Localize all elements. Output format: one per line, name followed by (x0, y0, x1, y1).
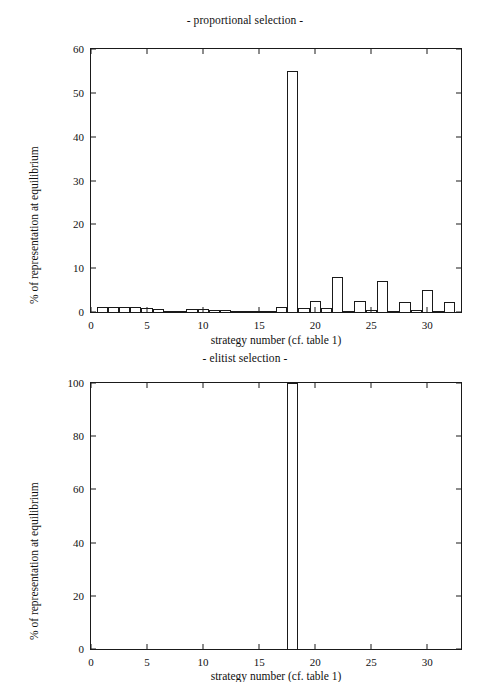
x-axis-tick-label: 30 (422, 649, 433, 668)
y-axis-tick-label: 80 (73, 430, 91, 442)
x-axis-tick-mark (91, 49, 92, 54)
x-axis-tick-mark (147, 644, 148, 649)
x-axis-tick-mark (147, 49, 148, 54)
y-axis-tick-mark (91, 92, 96, 93)
y-axis-tick-mark (91, 224, 96, 225)
y-axis-tick-label: 40 (73, 537, 91, 549)
bar (377, 281, 388, 312)
bar (276, 307, 287, 312)
x-axis-tick-label: 20 (310, 649, 321, 668)
x-axis-tick-mark (315, 383, 316, 388)
y-axis-tick-mark (456, 649, 461, 650)
bar (231, 311, 242, 312)
bar (399, 302, 410, 312)
bar (388, 311, 399, 312)
x-axis-tick-mark (427, 307, 428, 312)
y-axis-tick-mark (91, 268, 96, 269)
x-axis-tick-mark (371, 307, 372, 312)
y-axis-tick-label: 10 (73, 262, 91, 274)
y-axis-label-top: % of representation at equilibrium (28, 146, 40, 304)
y-axis-tick-mark (91, 489, 96, 490)
y-axis-tick-mark (456, 542, 461, 543)
y-axis-tick-mark (456, 224, 461, 225)
y-axis-tick-mark (456, 180, 461, 181)
y-axis-tick-label: 60 (73, 43, 91, 55)
bar (209, 310, 220, 312)
y-axis-tick-mark (456, 49, 461, 50)
x-axis-tick-mark (147, 383, 148, 388)
y-axis-tick-label: 20 (73, 218, 91, 230)
bar (164, 311, 175, 312)
y-axis-tick-mark (91, 49, 96, 50)
bar (343, 311, 354, 312)
bar (298, 308, 309, 312)
y-axis-tick-mark (91, 595, 96, 596)
x-axis-tick-mark (259, 383, 260, 388)
x-axis-tick-mark (203, 644, 204, 649)
bar (130, 307, 141, 312)
chart-proportional-selection: - proportional selection - 0102030405060… (0, 14, 490, 344)
x-axis-tick-mark (259, 49, 260, 54)
x-axis-tick-label: 0 (88, 649, 94, 668)
bar (119, 307, 130, 312)
bar (287, 383, 298, 649)
bar (186, 309, 197, 312)
y-axis-tick-mark (456, 92, 461, 93)
x-axis-tick-label: 5 (144, 312, 150, 331)
x-axis-tick-mark (427, 49, 428, 54)
x-axis-tick-mark (371, 644, 372, 649)
x-axis-tick-mark (259, 307, 260, 312)
bar (411, 310, 422, 312)
x-axis-tick-mark (203, 49, 204, 54)
plot-area-bottom: 020406080100 051015202530 (90, 382, 462, 650)
bar (444, 302, 455, 312)
y-axis-tick-mark (456, 383, 461, 384)
x-axis-tick-mark (91, 383, 92, 388)
y-axis-tick-mark (456, 595, 461, 596)
bar (220, 310, 231, 312)
x-axis-tick-mark (371, 49, 372, 54)
x-axis-tick-label: 25 (366, 649, 377, 668)
bar (433, 311, 444, 312)
y-axis-tick-mark (91, 180, 96, 181)
x-axis-label-bottom: strategy number (cf. table 1) (90, 670, 462, 682)
x-axis-tick-label: 5 (144, 649, 150, 668)
x-axis-tick-label: 25 (366, 312, 377, 331)
x-axis-tick-mark (91, 644, 92, 649)
y-axis-tick-mark (91, 136, 96, 137)
y-axis-tick-mark (456, 436, 461, 437)
y-axis-tick-label: 50 (73, 87, 91, 99)
x-axis-tick-mark (315, 49, 316, 54)
figure-page: - proportional selection - 0102030405060… (0, 0, 490, 682)
x-axis-tick-mark (203, 307, 204, 312)
chart-title-top: - proportional selection - (0, 14, 490, 26)
y-axis-tick-mark (91, 383, 96, 384)
plot-area-top: 0102030405060 051015202530 (90, 48, 462, 313)
y-axis-tick-label: 100 (68, 377, 92, 389)
y-axis-tick-mark (456, 136, 461, 137)
y-axis-label-bottom: % of representation at equilibrium (28, 482, 40, 640)
x-axis-tick-label: 30 (422, 312, 433, 331)
x-axis-tick-mark (259, 644, 260, 649)
x-axis-tick-label: 10 (198, 649, 209, 668)
bar (242, 311, 253, 312)
x-axis-tick-mark (427, 644, 428, 649)
bar (354, 301, 365, 312)
bar (321, 308, 332, 312)
bar (97, 307, 108, 312)
x-axis-tick-label: 0 (88, 312, 94, 331)
bar-series-bottom (91, 383, 461, 649)
y-axis-tick-label: 30 (73, 175, 91, 187)
y-axis-tick-label: 40 (73, 131, 91, 143)
x-axis-tick-mark (315, 307, 316, 312)
y-axis-tick-label: 20 (73, 590, 91, 602)
bar (153, 309, 164, 312)
bar (175, 311, 186, 312)
x-axis-tick-mark (91, 307, 92, 312)
bar (265, 311, 276, 312)
chart-title-bottom: - elitist selection - (0, 352, 490, 364)
bar (287, 71, 298, 312)
x-axis-tick-mark (427, 383, 428, 388)
x-axis-tick-mark (371, 383, 372, 388)
y-axis-tick-mark (91, 436, 96, 437)
